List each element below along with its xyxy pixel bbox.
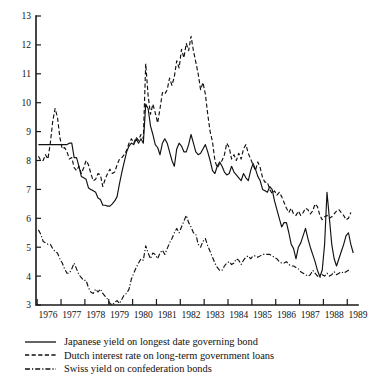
axis-frame [36,16,358,305]
y-tick-label: 13 [22,11,32,21]
legend-label-swiss: Swiss yield on confederation bonds [64,362,212,376]
y-tick-label: 6 [26,214,31,224]
line-chart-plot: 345678910111213 197619771978197919801981… [0,0,381,330]
y-tick-label: 4 [26,272,31,282]
x-axis-ticks [37,299,347,305]
legend-item-japanese: Japanese yield on longest date governing… [24,335,374,349]
chart-legend: Japanese yield on longest date governing… [24,335,374,376]
x-axis-tick-labels: 1976197719781979198019811982198319841985… [38,310,367,320]
y-tick-label: 5 [26,243,31,253]
data-series-group [38,36,353,305]
series-line-0 [38,104,353,277]
legend-sample-dashdot [24,363,57,375]
x-tick-label: 1989 [349,310,368,320]
y-tick-label: 11 [22,69,31,79]
legend-item-swiss: Swiss yield on confederation bonds [24,362,374,376]
x-tick-label: 1978 [86,310,105,320]
x-tick-label: 1983 [205,310,224,320]
x-tick-label: 1976 [38,310,57,320]
x-tick-label: 1986 [277,310,296,320]
legend-item-dutch: Dutch interest rate on long-term governm… [24,349,374,363]
y-tick-label: 12 [22,40,32,50]
x-tick-label: 1979 [110,310,129,320]
legend-label-dutch: Dutch interest rate on long-term governm… [64,349,274,363]
y-tick-label: 10 [22,98,32,108]
x-tick-label: 1980 [134,310,153,320]
x-tick-label: 1987 [301,310,320,320]
y-axis-tick-labels: 345678910111213 [22,11,32,310]
x-tick-label: 1988 [325,310,344,320]
y-tick-label: 9 [26,127,31,137]
y-tick-label: 8 [26,156,31,166]
x-tick-label: 1981 [158,310,177,320]
legend-sample-dashed [24,349,57,361]
x-tick-label: 1985 [253,310,272,320]
y-tick-label: 7 [26,185,31,195]
chart-figure: 345678910111213 197619771978197919801981… [0,0,381,389]
series-line-2 [38,215,350,305]
x-tick-label: 1984 [229,310,248,320]
legend-label-japanese: Japanese yield on longest date governing… [64,335,258,349]
y-tick-label: 3 [26,300,31,310]
x-tick-label: 1982 [182,310,201,320]
series-line-1 [38,36,350,220]
legend-sample-solid [24,336,57,348]
x-tick-label: 1977 [62,310,81,320]
